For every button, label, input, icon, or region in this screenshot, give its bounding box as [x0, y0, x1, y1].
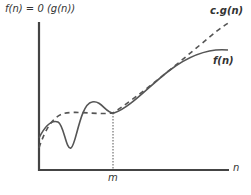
n-label: n	[233, 162, 239, 173]
cg-curve	[39, 22, 230, 148]
f-label: f(n)	[213, 55, 234, 66]
big-o-diagram	[0, 0, 251, 195]
cg-label: c.g(n)	[210, 5, 243, 16]
title-label: f(n) = 0 (g(n))	[5, 3, 75, 14]
m-label: m	[108, 172, 118, 183]
